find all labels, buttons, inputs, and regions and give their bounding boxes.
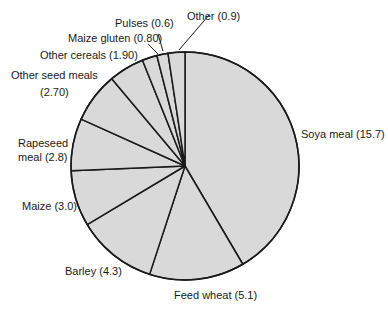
label-pulses: Pulses (0.6) — [115, 16, 174, 30]
label-other: Other (0.9) — [187, 9, 240, 23]
label-other-cereals: Other cereals (1.90) — [40, 48, 138, 62]
label-soya-meal: Soya meal (15.7) — [301, 127, 385, 141]
label-other-seed-meals-line1: Other seed meals — [11, 68, 98, 82]
pie-slices — [71, 52, 299, 280]
label-rapeseed-meal-line1: Rapeseed — [18, 136, 68, 150]
label-other-seed-meals-line2: (2.70) — [40, 85, 69, 99]
label-maize-gluten: Maize gluten (0.80) — [68, 31, 162, 45]
label-rapeseed-meal-line2: meal (2.8) — [18, 150, 68, 164]
label-barley: Barley (4.3) — [65, 264, 122, 278]
label-feed-wheat: Feed wheat (5.1) — [174, 288, 257, 302]
leader-line-maize-gluten — [148, 44, 158, 54]
label-maize: Maize (3.0) — [22, 199, 77, 213]
